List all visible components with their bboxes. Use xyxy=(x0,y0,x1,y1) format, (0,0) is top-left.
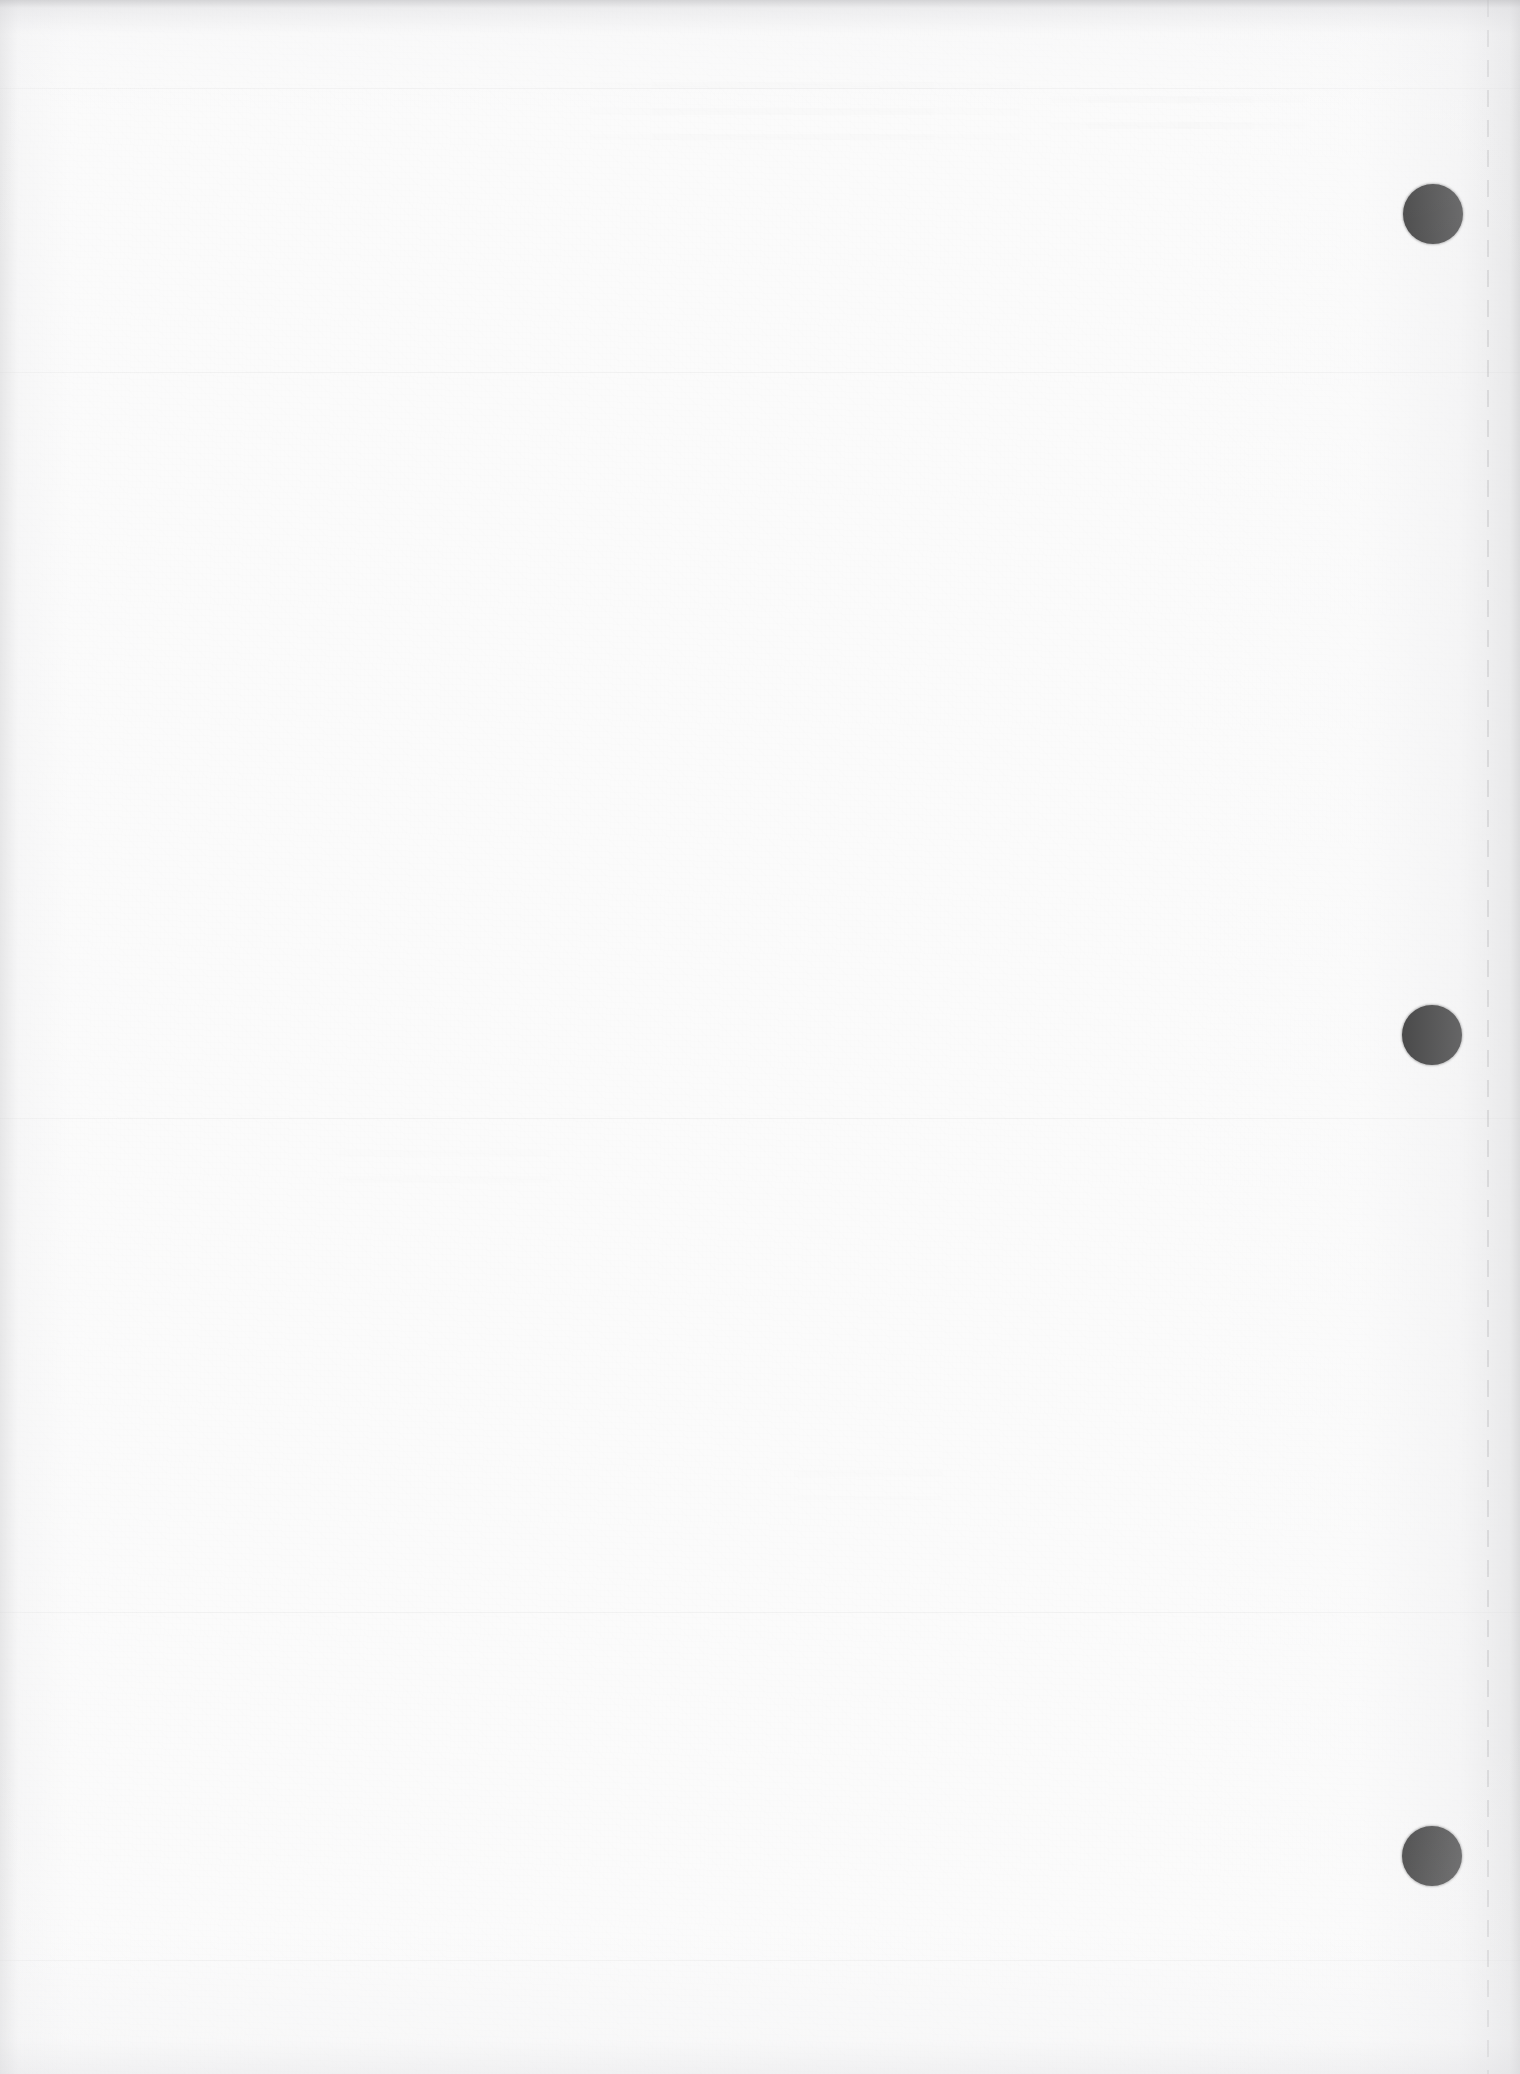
registration-dot-top xyxy=(1403,184,1463,244)
registration-dot-bottom xyxy=(1402,1826,1462,1886)
registration-dot-middle xyxy=(1402,1005,1462,1065)
paper-background xyxy=(0,0,1520,2074)
scanned-page xyxy=(0,0,1520,2074)
